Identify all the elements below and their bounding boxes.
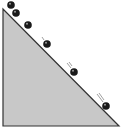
motion-line — [42, 37, 44, 40]
ball — [7, 1, 15, 9]
motion-line — [69, 62, 72, 66]
incline-diagram — [0, 0, 123, 135]
inclined-plane — [3, 9, 119, 126]
ball — [43, 40, 51, 48]
motion-line — [99, 93, 104, 100]
diagram-canvas — [0, 0, 123, 135]
ball — [12, 9, 20, 17]
ball — [24, 21, 32, 29]
ball — [70, 68, 78, 76]
ball — [102, 102, 110, 110]
